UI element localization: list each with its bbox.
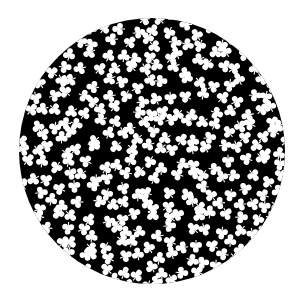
clover-disc-figure (0, 0, 303, 306)
